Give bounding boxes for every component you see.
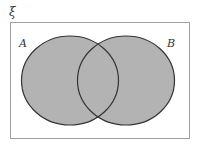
set-b-label: B xyxy=(166,37,175,50)
universal-set-label: ξ xyxy=(9,5,17,19)
set-a-label: A xyxy=(18,37,27,50)
shaded-union xyxy=(22,36,175,125)
venn-diagram: ξ A B xyxy=(0,0,202,145)
